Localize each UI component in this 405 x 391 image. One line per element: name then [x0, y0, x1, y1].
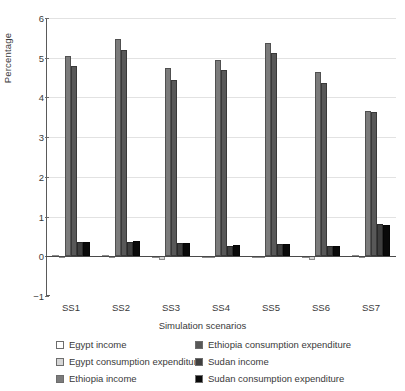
bar-group — [46, 18, 96, 296]
legend-item: Ethiopia income — [56, 370, 202, 387]
legend-label: Egypt income — [69, 339, 127, 350]
legend-column-left: Egypt incomeEgypt consumption expenditur… — [56, 336, 202, 387]
y-tick-label: 6 — [18, 18, 44, 19]
bar — [271, 53, 277, 256]
bar — [321, 83, 327, 257]
bar — [221, 70, 227, 256]
x-tick-label-ss7: SS7 — [351, 302, 391, 313]
legend-item: Sudan consumption expenditure — [195, 370, 351, 387]
bar — [183, 243, 189, 257]
y-tick-label: −1 — [18, 296, 44, 297]
legend-column-right: Ethiopia consumption expenditureSudan in… — [195, 336, 351, 387]
bar-group — [346, 18, 396, 296]
legend-swatch-icon — [56, 341, 64, 349]
x-tick-label-ss2: SS2 — [101, 302, 141, 313]
bar — [283, 244, 289, 256]
x-tick-label-ss6: SS6 — [301, 302, 341, 313]
x-tick-label-ss4: SS4 — [201, 302, 241, 313]
bar-group — [96, 18, 146, 296]
x-tick-label-ss5: SS5 — [251, 302, 291, 313]
y-tick-label: 1 — [18, 217, 44, 218]
legend-label: Ethiopia income — [69, 373, 137, 384]
bar — [71, 66, 77, 256]
y-tick-label: 4 — [18, 97, 44, 98]
bar — [333, 246, 339, 257]
legend-swatch-icon — [195, 358, 203, 366]
legend-item: Sudan income — [195, 353, 351, 370]
bar-group — [146, 18, 196, 296]
legend-label: Sudan income — [208, 356, 269, 367]
bar — [121, 50, 127, 257]
bar — [83, 242, 89, 257]
x-tick-label-ss1: SS1 — [51, 302, 91, 313]
legend-item: Ethiopia consumption expenditure — [195, 336, 351, 353]
legend-swatch-icon — [56, 375, 64, 383]
legend-label: Ethiopia consumption expenditure — [208, 339, 351, 350]
y-tick-label: 3 — [18, 137, 44, 138]
y-axis-title: Percentage — [2, 0, 13, 118]
legend-swatch-icon — [56, 358, 64, 366]
legend-item: Egypt income — [56, 336, 202, 353]
legend-swatch-icon — [195, 341, 203, 349]
chart-figure: Percentage −10123456 SS1SS2SS3SS4SS5SS6S… — [0, 0, 405, 391]
y-tick-mark — [45, 296, 49, 297]
plot-area: −10123456 — [46, 18, 396, 296]
bar-group — [296, 18, 346, 296]
bar — [233, 245, 239, 256]
legend-label: Egypt consumption expenditure — [69, 356, 202, 367]
legend-item: Egypt consumption expenditure — [56, 353, 202, 370]
x-tick-label-ss3: SS3 — [151, 302, 191, 313]
legend-swatch-icon — [195, 375, 203, 383]
x-axis-title: Simulation scenarios — [0, 320, 405, 331]
zero-baseline — [46, 256, 396, 257]
y-tick-label: 0 — [18, 256, 44, 257]
y-tick-label: 2 — [18, 177, 44, 178]
bar — [171, 80, 177, 257]
bar — [133, 241, 139, 256]
bar-group — [196, 18, 246, 296]
bar-group — [246, 18, 296, 296]
bar — [383, 225, 389, 256]
legend-label: Sudan consumption expenditure — [208, 373, 344, 384]
y-tick-label: 5 — [18, 58, 44, 59]
